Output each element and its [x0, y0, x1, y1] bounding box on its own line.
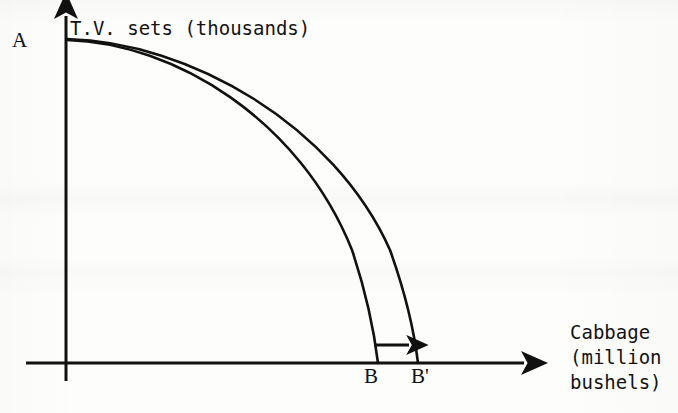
point-label-b-prime: B' [411, 364, 429, 389]
x-axis-label-line-2: (million [570, 346, 662, 368]
x-axis-label: Cabbage(millionbushels) [570, 320, 662, 395]
y-axis-label: T.V. sets (thousands) [70, 16, 310, 41]
x-axis-label-line-3: bushels) [570, 371, 662, 393]
ppf-curve-shifted [67, 39, 418, 363]
point-label-b: B [364, 364, 378, 389]
point-label-a: A [12, 28, 27, 53]
ppf-figure: T.V. sets (thousands) Cabbage(millionbus… [0, 0, 678, 413]
x-axis-label-line-1: Cabbage [570, 321, 650, 343]
ppf-curve-original [67, 40, 378, 363]
